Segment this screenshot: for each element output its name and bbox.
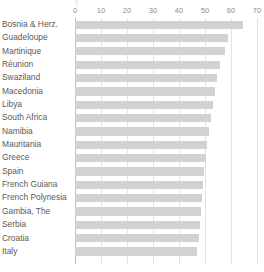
value-axis-tick-70: 70 [253, 6, 261, 16]
category-label: Réunion [0, 58, 72, 71]
bar[interactable] [75, 34, 228, 42]
bar-row [75, 151, 257, 164]
plot-area: 010203040506070 [75, 18, 257, 264]
category-axis-labels: Bosnia & Herz.GuadeloupeMartiniqueRéunio… [0, 18, 72, 258]
category-label: Greece [0, 151, 72, 164]
bar-row [75, 232, 257, 245]
category-label: Spain [0, 165, 72, 178]
bar[interactable] [75, 221, 200, 229]
value-axis-tick-40: 40 [175, 6, 183, 16]
bar-row [75, 111, 257, 124]
bar-row [75, 178, 257, 191]
bar-row [75, 98, 257, 111]
category-label: Croatia [0, 232, 72, 245]
bar[interactable] [75, 61, 220, 69]
clipped-title-mark [75, 0, 78, 5]
category-label: Italy [0, 245, 72, 258]
value-axis-tick-60: 60 [227, 6, 235, 16]
bar-row [75, 18, 257, 31]
bar[interactable] [75, 21, 243, 29]
bar-row [75, 45, 257, 58]
bar[interactable] [75, 87, 215, 95]
category-label: Macedonia [0, 85, 72, 98]
category-label: French Polynesia [0, 191, 72, 204]
bar-row [75, 191, 257, 204]
value-axis-tick-50: 50 [201, 6, 209, 16]
bar[interactable] [75, 154, 206, 162]
value-axis: 010203040506070 [75, 6, 257, 18]
bar[interactable] [75, 234, 199, 242]
category-label: Bosnia & Herz. [0, 18, 72, 31]
category-label: South Africa [0, 111, 72, 124]
bar[interactable] [75, 167, 204, 175]
bar[interactable] [75, 114, 211, 122]
value-axis-tick-10: 10 [97, 6, 105, 16]
category-label: Mauritania [0, 138, 72, 151]
bar-row [75, 165, 257, 178]
category-label: French Guiana [0, 178, 72, 191]
bar[interactable] [75, 207, 201, 215]
category-label: Gambia, The [0, 205, 72, 218]
bar-chart: Bosnia & Herz.GuadeloupeMartiniqueRéunio… [0, 0, 264, 272]
bar-row [75, 218, 257, 231]
bar-row [75, 205, 257, 218]
value-axis-tick-30: 30 [149, 6, 157, 16]
bar[interactable] [75, 141, 207, 149]
bar[interactable] [75, 47, 225, 55]
category-label: Martinique [0, 45, 72, 58]
bar-row [75, 71, 257, 84]
category-label: Namibia [0, 125, 72, 138]
category-label: Serbia [0, 218, 72, 231]
bar-row [75, 31, 257, 44]
bar-rows [75, 18, 257, 264]
category-label: Swaziland [0, 71, 72, 84]
bar[interactable] [75, 181, 203, 189]
category-label: Libya [0, 98, 72, 111]
bar-row [75, 58, 257, 71]
bar[interactable] [75, 74, 217, 82]
bar[interactable] [75, 247, 197, 255]
bar[interactable] [75, 101, 213, 109]
bar-row [75, 85, 257, 98]
bar-row [75, 138, 257, 151]
value-axis-tick-0: 0 [73, 6, 77, 16]
gridline-70 [257, 18, 258, 264]
category-label: Guadeloupe [0, 31, 72, 44]
bar-row [75, 245, 257, 258]
value-axis-tick-20: 20 [123, 6, 131, 16]
bar[interactable] [75, 127, 209, 135]
bar-row [75, 125, 257, 138]
bar[interactable] [75, 194, 202, 202]
